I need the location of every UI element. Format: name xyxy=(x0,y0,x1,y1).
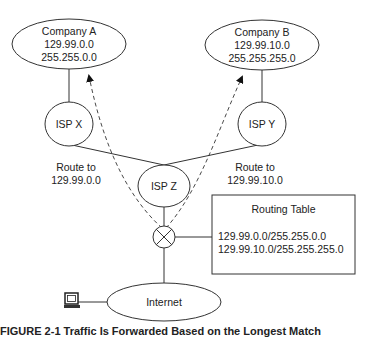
company-b-label: Company B 129.99.10.0 255.255.255.0 xyxy=(212,26,312,65)
company-b-network: 129.99.10.0 xyxy=(212,39,312,52)
isp-y-label: ISP Y xyxy=(237,118,287,131)
routing-table-entry: 129.99.0.0/255.255.0.0 xyxy=(218,230,344,243)
route-right-line1: Route to xyxy=(220,161,290,174)
company-a-mask: 255.255.0.0 xyxy=(19,51,119,64)
company-b-mask: 255.255.255.0 xyxy=(212,52,312,65)
route-left-line2: 129.99.0.0 xyxy=(46,174,106,187)
isp-z-label: ISP Z xyxy=(139,180,189,193)
router-icon xyxy=(153,226,175,248)
route-left-line1: Route to xyxy=(46,161,106,174)
company-a-name: Company A xyxy=(19,25,119,38)
internet-label: Internet xyxy=(134,296,194,309)
company-a-label: Company A 129.99.0.0 255.255.0.0 xyxy=(19,25,119,64)
routing-table-entries: 129.99.0.0/255.255.0.0 129.99.10.0/255.2… xyxy=(218,230,344,256)
figure-caption: FIGURE 2-1 Traffic Is Forwarded Based on… xyxy=(0,325,321,337)
route-label-right: Route to 129.99.10.0 xyxy=(220,161,290,187)
company-a-network: 129.99.0.0 xyxy=(19,38,119,51)
route-label-left: Route to 129.99.0.0 xyxy=(46,161,106,187)
company-b-name: Company B xyxy=(212,26,312,39)
routing-table-title: Routing Table xyxy=(212,203,355,216)
computer-icon xyxy=(64,293,80,308)
isp-x-label: ISP X xyxy=(44,118,94,131)
routing-table-entry: 129.99.10.0/255.255.255.0 xyxy=(218,243,344,256)
route-arrow-to-company-a xyxy=(89,76,162,228)
route-right-line2: 129.99.10.0 xyxy=(220,174,290,187)
